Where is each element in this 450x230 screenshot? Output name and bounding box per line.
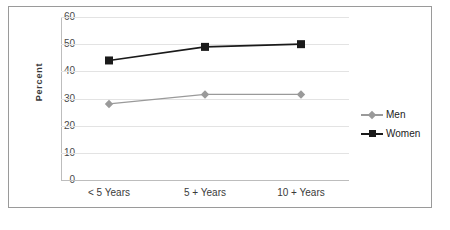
data-point-men-1 (201, 90, 209, 98)
legend-marker-square-icon (361, 128, 383, 140)
gridline-0 (61, 180, 349, 181)
legend-label: Men (383, 109, 405, 120)
legend-item-women[interactable]: Women (361, 124, 431, 143)
chart-figure: Percent 0102030405060 < 5 Years5 + Years… (8, 6, 432, 208)
plot-area (61, 17, 349, 180)
legend-item-men[interactable]: Men (361, 105, 431, 124)
x-tick-label: 10 + Years (256, 187, 346, 198)
data-point-men-0 (105, 100, 113, 108)
y-axis-title: Percent (34, 42, 44, 122)
x-tick-label: < 5 Years (64, 187, 154, 198)
data-series-layer (61, 17, 349, 180)
data-point-men-2 (297, 90, 305, 98)
data-point-women-2 (297, 40, 305, 48)
data-point-women-0 (105, 56, 113, 64)
data-point-women-1 (201, 43, 209, 51)
legend-marker-diamond-icon (361, 109, 383, 121)
chart-legend: MenWomen (361, 105, 431, 143)
x-tick-label: 5 + Years (160, 187, 250, 198)
x-axis-tick-labels: < 5 Years5 + Years10 + Years (61, 187, 349, 203)
legend-label: Women (383, 128, 420, 139)
